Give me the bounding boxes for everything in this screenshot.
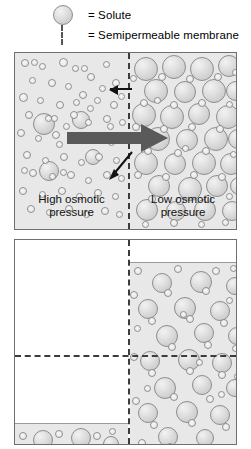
legend-item-membrane: = Semipermeable membrane (52, 24, 239, 46)
label-high-line1: High osmotic (15, 193, 128, 206)
label-high-osmotic-pressure: High osmotic pressure (15, 193, 128, 219)
net-water-flow-arrow (67, 123, 169, 153)
label-low-line2: pressure (130, 206, 236, 219)
solvent-particle (236, 417, 237, 424)
label-low-line1: Low osmotic (130, 193, 236, 206)
solute-circle-icon (52, 4, 74, 26)
bottom-left-fluid (15, 423, 128, 444)
legend: = Solute = Semipermeable membrane (0, 0, 251, 48)
dashed-line-icon (52, 24, 74, 46)
label-low-osmotic-pressure: Low osmotic pressure (130, 193, 236, 219)
water-flow-arrow-left (110, 88, 132, 90)
bottom-left-fluid-surface (15, 423, 128, 424)
bottom-right-fluid-surface (130, 262, 236, 263)
label-high-line2: pressure (15, 206, 128, 219)
equilibrium-level-line (15, 355, 236, 357)
legend-label-solute: = Solute (88, 9, 131, 21)
legend-label-membrane: = Semipermeable membrane (88, 29, 239, 41)
legend-item-solute: = Solute (52, 4, 131, 26)
bottom-right-fluid (130, 262, 236, 444)
top-panel-osmosis-start: High osmotic pressure Low osmotic pressu… (14, 52, 237, 230)
semipermeable-membrane-bottom (128, 240, 130, 444)
membrane-pointer-arrow (107, 151, 133, 181)
bottom-panel-osmosis-equilibrium (14, 239, 237, 445)
